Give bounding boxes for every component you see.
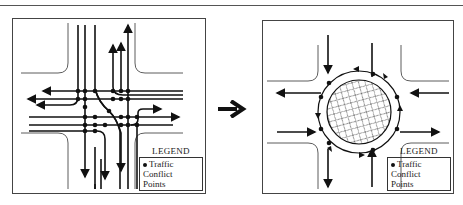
- intersection-panel: LEGEND Traffic Conflict Points: [12, 18, 206, 194]
- legend: LEGEND Traffic Conflict Points: [139, 146, 203, 191]
- legend-title: LEGEND: [139, 146, 203, 156]
- legend-entry-line1: Traffic Conflict: [391, 159, 422, 179]
- legend-title: LEGEND: [387, 146, 451, 156]
- legend-box: Traffic Conflict Points: [387, 157, 451, 191]
- legend-entry-line1: Traffic Conflict: [143, 159, 174, 179]
- conflict-point-dot-icon: [391, 163, 395, 167]
- legend-box: Traffic Conflict Points: [139, 157, 203, 191]
- roundabout-panel: LEGEND Traffic Conflict Points: [262, 20, 454, 194]
- legend-entry-line2: Points: [143, 179, 166, 189]
- right-arrow-icon: [217, 100, 247, 118]
- top-rule: [0, 5, 463, 6]
- legend: LEGEND Traffic Conflict Points: [387, 146, 451, 191]
- conflict-point-dot-icon: [143, 163, 147, 167]
- legend-entry-line2: Points: [391, 179, 414, 189]
